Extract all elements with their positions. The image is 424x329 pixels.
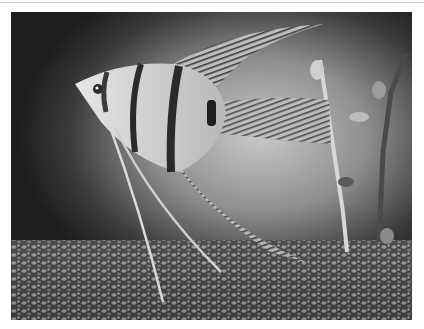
angelfish-photo: Black and white photograph of an angelfi… xyxy=(11,12,412,320)
top-border-line xyxy=(0,2,424,3)
fish-body xyxy=(75,63,226,172)
photo-illustration xyxy=(11,12,412,320)
aquarium-plants xyxy=(310,54,406,252)
tail-fin xyxy=(211,98,331,144)
gravel-bed xyxy=(11,240,412,320)
